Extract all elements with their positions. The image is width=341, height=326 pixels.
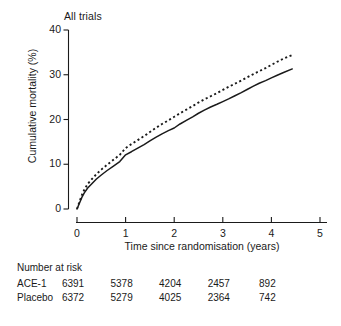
risk-row-label: Placebo — [17, 292, 53, 303]
x-tick-label-5: 5 — [308, 227, 332, 239]
risk-row-label: ACE-1 — [17, 278, 46, 289]
risk-cell: 4204 — [153, 278, 187, 289]
chart-title: All trials — [64, 10, 102, 22]
risk-cell: 742 — [250, 292, 284, 303]
y-tick-label-0: 0 — [37, 202, 61, 214]
risk-cell: 2364 — [202, 292, 236, 303]
data-series-group — [77, 55, 292, 209]
x-tick-label-4: 4 — [259, 227, 283, 239]
y-tick-label-20: 20 — [37, 113, 61, 125]
axes — [64, 30, 328, 223]
risk-cell: 4025 — [153, 292, 187, 303]
x-tick-label-0: 0 — [65, 227, 89, 239]
risk-cell: 2457 — [202, 278, 236, 289]
risk-row: ACE-16391537842042457892 — [0, 278, 341, 292]
y-tick-label-10: 10 — [37, 157, 61, 169]
y-tick-label-30: 30 — [37, 68, 61, 80]
x-axis-ticks — [77, 217, 320, 223]
series-line-ace-1 — [77, 69, 292, 209]
survival-curve-figure: All trials Cumulative mortality (%) Time… — [0, 0, 341, 326]
x-tick-label-1: 1 — [114, 227, 138, 239]
risk-row: Placebo6372527940252364742 — [0, 292, 341, 306]
y-axis-ticks — [64, 30, 69, 209]
risk-cell: 892 — [250, 278, 284, 289]
risk-cell: 6372 — [56, 292, 90, 303]
risk-cell: 5378 — [105, 278, 139, 289]
series-line-placebo — [77, 55, 292, 209]
x-tick-label-2: 2 — [162, 227, 186, 239]
y-tick-label-40: 40 — [37, 23, 61, 35]
risk-cell: 6391 — [56, 278, 90, 289]
risk-table-heading: Number at risk — [17, 262, 82, 273]
risk-cell: 5279 — [105, 292, 139, 303]
x-tick-label-3: 3 — [211, 227, 235, 239]
x-axis-title: Time since randomisation (years) — [76, 240, 328, 252]
